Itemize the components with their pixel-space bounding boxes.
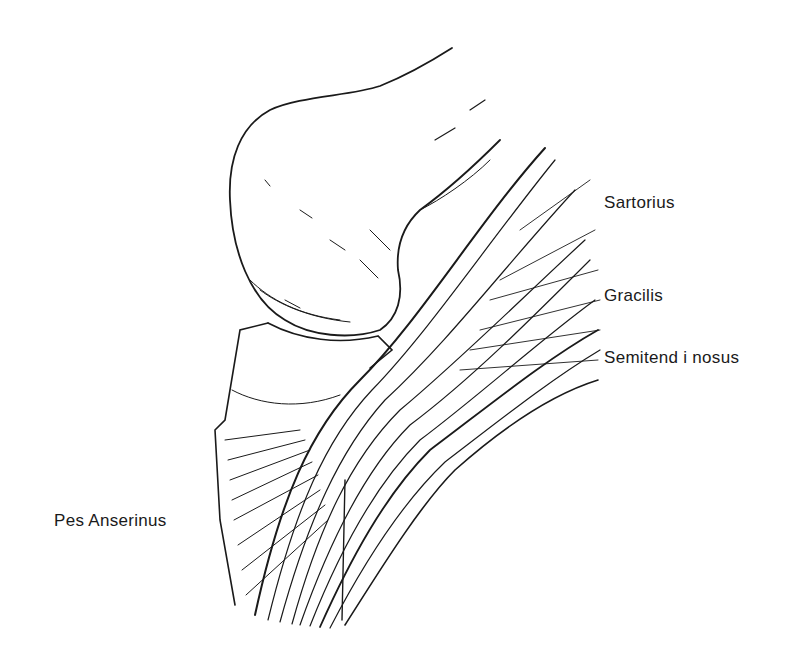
- knee-anatomy-illustration: [0, 0, 812, 668]
- femur-condyle: [230, 48, 500, 335]
- tendon-fibers: [255, 148, 600, 628]
- label-semitendinosus: Semitend i nosus: [604, 348, 739, 368]
- label-pes-anserinus: Pes Anserinus: [54, 511, 167, 531]
- label-sartorius: Sartorius: [604, 193, 675, 213]
- tibia: [215, 323, 392, 620]
- pes-anserinus-fan: [225, 430, 328, 595]
- condyle-shading: [250, 180, 390, 322]
- label-gracilis: Gracilis: [604, 286, 663, 306]
